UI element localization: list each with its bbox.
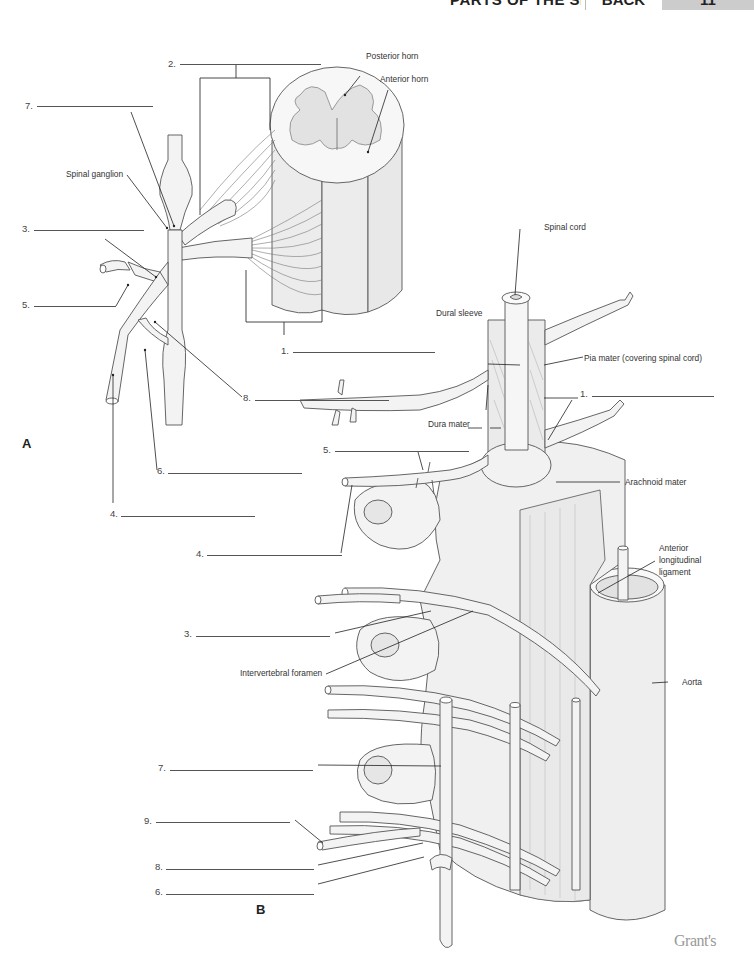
- label-aorta: Aorta: [682, 676, 702, 687]
- answer-line[interactable]: [34, 306, 116, 307]
- answer-line[interactable]: [255, 400, 389, 401]
- publisher-logo: Grant's: [674, 932, 716, 950]
- answer-line[interactable]: [180, 64, 321, 65]
- answer-line[interactable]: [168, 473, 302, 474]
- answer-line[interactable]: [156, 822, 290, 823]
- panel-label-a: A: [22, 436, 31, 451]
- answer-line[interactable]: [207, 555, 342, 556]
- panel-label-b: B: [256, 902, 265, 917]
- spinal-ganglion-shape: [160, 135, 193, 230]
- answer-line[interactable]: [166, 869, 314, 870]
- label-dural-sleeve: Dural sleeve: [436, 307, 482, 318]
- answer-line[interactable]: [166, 894, 314, 895]
- sympathetic-trunk: [440, 700, 452, 948]
- label-anterior-longitudinal-ligament: Anterior longitudinal ligament: [659, 542, 701, 578]
- answer-line[interactable]: [293, 352, 435, 353]
- label-dura-mater: Dura mater: [428, 418, 470, 429]
- answer-line[interactable]: [121, 516, 255, 517]
- aorta-shape: [590, 585, 665, 920]
- label-spinal-cord: Spinal cord: [544, 221, 586, 232]
- answer-line[interactable]: [170, 770, 313, 771]
- label-arachnoid-mater: Arachnoid mater: [625, 476, 686, 487]
- label-intervertebral-foramen: Intervertebral foramen: [240, 667, 322, 678]
- answer-line[interactable]: [196, 636, 330, 637]
- answer-line[interactable]: [335, 451, 469, 452]
- label-spinal-ganglion: Spinal ganglion: [66, 168, 123, 179]
- answer-line[interactable]: [34, 230, 144, 231]
- answer-line[interactable]: [37, 106, 153, 107]
- label-pia-mater: Pia mater (covering spinal cord): [584, 352, 702, 363]
- answer-line[interactable]: [592, 396, 714, 397]
- label-posterior-horn: Posterior horn: [366, 50, 419, 61]
- label-anterior-horn: Anterior horn: [380, 73, 428, 84]
